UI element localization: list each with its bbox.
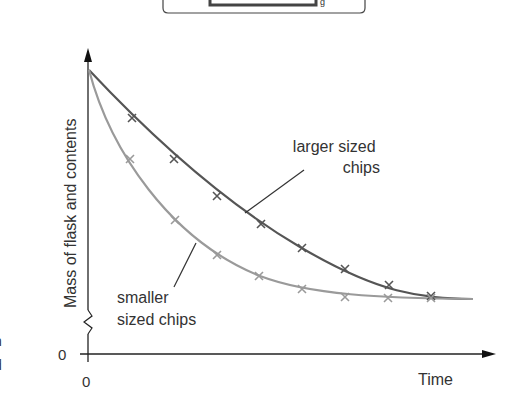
svg-text:d: d	[0, 357, 2, 373]
x-axis-arrow-icon	[482, 350, 496, 358]
x-axis-label: Time	[418, 371, 453, 388]
svg-text:n: n	[0, 333, 2, 349]
smaller-chips-markers	[126, 155, 435, 302]
y-axis-label: Mass of flask and contents	[62, 119, 79, 308]
larger-chips-label: larger sized chips	[293, 138, 380, 176]
larger-chips-markers	[128, 114, 435, 300]
y-origin-label: 0	[58, 346, 66, 363]
smaller-chips-label: smaller sized chips	[117, 289, 196, 328]
balance-unit-label: g	[320, 0, 325, 7]
balance-fragment: g	[163, 0, 365, 13]
mass-time-chart: g f n d 0 0 Time Mass of flask and conte…	[0, 0, 516, 400]
smaller-chips-curve	[89, 70, 473, 299]
larger-chips-curve	[89, 70, 473, 299]
smaller-chips-pointer	[174, 243, 196, 287]
left-clipped-text: f n d	[0, 309, 2, 373]
y-axis-arrow-icon	[84, 48, 92, 62]
x-origin-label: 0	[82, 373, 90, 390]
larger-chips-pointer	[245, 170, 304, 213]
